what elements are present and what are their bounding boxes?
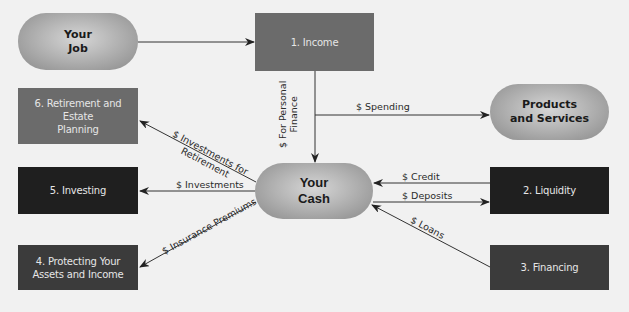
edge-label-investments: $ Investments — [176, 179, 244, 190]
edge-label-for-personal-finance: $ For Personal Finance — [277, 81, 299, 148]
node-label: 1. Income — [291, 36, 339, 49]
node-financing: 3. Financing — [490, 245, 609, 290]
node-label: Products and Services — [510, 98, 589, 126]
node-your-cash: Your Cash — [255, 163, 373, 219]
edge-label-deposits: $ Deposits — [402, 190, 452, 201]
node-protecting-assets: 4. Protecting Your Assets and Income — [18, 245, 138, 290]
edge-label-credit: $ Credit — [402, 171, 440, 182]
node-label: Your Job — [64, 28, 92, 56]
node-label: 4. Protecting Your Assets and Income — [32, 255, 123, 281]
node-liquidity: 2. Liquidity — [490, 167, 609, 214]
node-products-services: Products and Services — [490, 84, 609, 140]
node-investing: 5. Investing — [18, 167, 138, 214]
node-label: Your Cash — [298, 175, 330, 207]
node-your-job: Your Job — [18, 13, 138, 70]
node-label: 3. Financing — [521, 261, 579, 274]
node-income: 1. Income — [255, 13, 374, 71]
node-label: 6. Retirement and Estate Planning — [18, 97, 138, 136]
node-label: 2. Liquidity — [523, 184, 576, 197]
node-label: 5. Investing — [50, 184, 106, 197]
edge-label-spending: $ Spending — [356, 101, 410, 112]
node-retirement-estate-planning: 6. Retirement and Estate Planning — [18, 88, 138, 144]
